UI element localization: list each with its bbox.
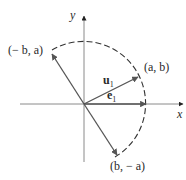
x-axis-label: x — [176, 107, 183, 121]
vector-b-neg-a — [84, 104, 117, 155]
vector-label-u1: u1 — [103, 73, 114, 89]
point-label-neg-b-a: (− b, a) — [8, 43, 43, 57]
point-label-b-neg-a: (b, − a) — [110, 159, 145, 173]
y-axis-label: y — [69, 8, 76, 22]
rotation-diagram: y x (− b, a) (a, b) (b, − a) u1 e1 — [0, 0, 186, 180]
point-label-a-b: (a, b) — [144, 60, 169, 74]
vector-neg-b-a — [52, 54, 84, 104]
dashed-arc — [52, 41, 146, 157]
vector-label-e1: e1 — [107, 88, 116, 104]
